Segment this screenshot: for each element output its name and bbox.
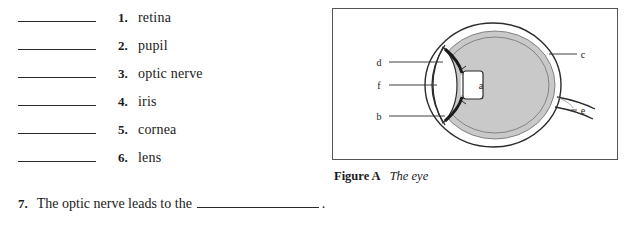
- list-item-number: 3.: [118, 66, 138, 82]
- answer-blank-6[interactable]: [18, 150, 96, 162]
- list-item: 6. lens: [18, 150, 318, 178]
- list-item-label: iris: [138, 94, 157, 110]
- list-item-number: 6.: [118, 150, 138, 166]
- list-item-number: 2.: [118, 38, 138, 54]
- sentence-text-after: .: [322, 196, 326, 212]
- figure-a: a b c d e f Figure AThe eye: [332, 8, 620, 184]
- list-item-label: lens: [138, 150, 161, 166]
- list-item-label: optic nerve: [138, 66, 203, 82]
- figure-label-f: f: [377, 80, 381, 91]
- figure-label-a: a: [479, 80, 484, 91]
- answer-blank-3[interactable]: [18, 66, 96, 78]
- eye-diagram: a b c d e f: [333, 9, 619, 161]
- list-item: 2. pupil: [18, 38, 318, 66]
- list-item-label: retina: [138, 10, 171, 26]
- figure-label-e: e: [581, 105, 586, 116]
- sentence-text-before: The optic nerve leads to the: [37, 196, 192, 212]
- list-item-number: 4.: [118, 94, 138, 110]
- list-item-number: 1.: [118, 10, 138, 26]
- figure-label-d: d: [377, 57, 382, 68]
- list-item-label: pupil: [138, 38, 168, 54]
- sentence-number: 7.: [18, 196, 28, 212]
- list-item: 4. iris: [18, 94, 318, 122]
- list-item: 3. optic nerve: [18, 66, 318, 94]
- list-item-number: 5.: [118, 122, 138, 138]
- answer-blank-4[interactable]: [18, 94, 96, 106]
- list-item: 1. retina: [18, 10, 318, 38]
- list-item: 5. cornea: [18, 122, 318, 150]
- answer-blank-7[interactable]: [197, 196, 319, 208]
- figure-caption-label: Figure A: [334, 169, 381, 183]
- optic-nerve-upper-edge: [557, 97, 595, 109]
- figure-label-b: b: [377, 111, 382, 122]
- figure-caption-title: The eye: [390, 169, 429, 183]
- answer-blank-1[interactable]: [18, 10, 96, 22]
- fill-in-sentence: 7. The optic nerve leads to the .: [18, 196, 325, 212]
- worksheet-page: 1. retina 2. pupil 3. optic nerve 4. iri…: [0, 0, 632, 229]
- matching-list: 1. retina 2. pupil 3. optic nerve 4. iri…: [18, 10, 318, 178]
- optic-nerve-lower-edge: [555, 107, 593, 119]
- list-item-label: cornea: [138, 122, 177, 138]
- answer-blank-2[interactable]: [18, 38, 96, 50]
- figure-border-box: a b c d e f: [332, 8, 618, 160]
- answer-blank-5[interactable]: [18, 122, 96, 134]
- figure-label-c: c: [581, 49, 586, 60]
- figure-caption: Figure AThe eye: [332, 169, 620, 184]
